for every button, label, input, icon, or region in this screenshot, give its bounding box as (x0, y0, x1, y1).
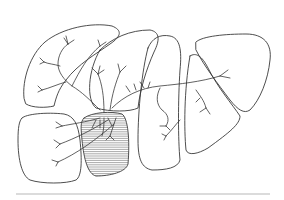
liver-segments-diagram (0, 0, 284, 200)
segment-middle-a (138, 36, 181, 171)
segment-left-upper-lobe (24, 25, 120, 108)
segment-left-lower (18, 113, 81, 183)
segment-middle-b (185, 55, 240, 154)
segment-upper-middle (90, 30, 158, 111)
segment-right-lobe (196, 34, 270, 112)
vascular-tree (38, 36, 230, 166)
